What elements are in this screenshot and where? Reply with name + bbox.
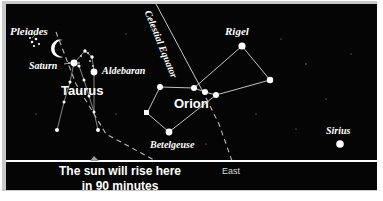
pleiades-leader-line	[32, 34, 36, 38]
star-saturn	[71, 60, 78, 67]
sunrise-caption-line-1: The sun will rise here	[20, 164, 220, 179]
taurus-stars	[55, 49, 100, 132]
pleiades-cluster	[29, 37, 40, 47]
star-chart-figure: Pleiades Saturn Aldebaran Taurus Celesti…	[0, 0, 383, 201]
star-rigel	[238, 42, 245, 49]
ecliptic-dashed-lines	[56, 32, 232, 161]
celestial-equator-line	[156, 4, 202, 90]
chart-frame-border: Pleiades Saturn Aldebaran Taurus Celesti…	[2, 1, 377, 191]
star-aldebaran	[91, 69, 98, 76]
sunrise-caption: The sun will rise here in 90 minutes	[20, 164, 220, 190]
star-sirius	[336, 140, 344, 148]
star-orion-left-edge	[144, 110, 149, 115]
star-betelgeuse	[166, 129, 173, 136]
sky-vector-layer	[6, 4, 377, 190]
crescent-moon-icon	[51, 40, 63, 58]
sunrise-point-marker	[90, 156, 99, 161]
orion-stars	[157, 42, 273, 135]
orion-constellation-lines	[147, 46, 270, 132]
night-sky-panel: Pleiades Saturn Aldebaran Taurus Celesti…	[6, 4, 377, 190]
sunrise-caption-line-2: in 90 minutes	[20, 179, 220, 190]
